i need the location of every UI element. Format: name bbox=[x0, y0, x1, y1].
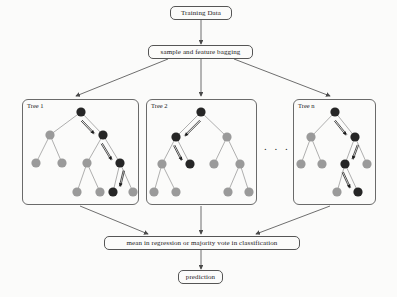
tree-edge bbox=[162, 164, 176, 192]
aggregation-box: mean in regression or majority vote in c… bbox=[104, 236, 300, 250]
tree-node-gray bbox=[157, 159, 166, 168]
tree-edge bbox=[120, 163, 133, 192]
tree-node-gray bbox=[244, 187, 253, 196]
tree-graph-tree-2 bbox=[149, 107, 253, 196]
tree-node-dark bbox=[115, 158, 124, 167]
tree-node-gray bbox=[95, 187, 104, 196]
tree-node-gray bbox=[57, 158, 66, 167]
tree-node-dark bbox=[108, 187, 117, 196]
tree-node-dark bbox=[76, 107, 85, 116]
tree-edge bbox=[311, 112, 335, 137]
tree-node-dark bbox=[185, 159, 194, 168]
tree-node-dark bbox=[330, 107, 339, 116]
tree-node-gray bbox=[45, 130, 54, 139]
tree-graph-tree-1 bbox=[31, 107, 137, 196]
tree-node-gray bbox=[31, 158, 40, 167]
tree-edge bbox=[87, 135, 103, 163]
tree-edge bbox=[36, 135, 50, 163]
tree-node-gray bbox=[235, 159, 244, 168]
tree-node-gray bbox=[128, 187, 137, 196]
bagging-box: sample and feature bagging bbox=[148, 45, 253, 59]
tree-node-gray bbox=[149, 187, 158, 196]
tree-edge bbox=[87, 163, 100, 192]
tree-node-gray bbox=[171, 187, 180, 196]
diagram-canvas: Tree 1 Tree 2 Tree n . . . Training Data… bbox=[0, 0, 397, 297]
tree-node-gray bbox=[362, 159, 371, 168]
tree-edge bbox=[345, 164, 358, 192]
tree-node-gray bbox=[332, 187, 341, 196]
tree-node-dark bbox=[340, 159, 349, 168]
tree-node-dark bbox=[350, 132, 359, 141]
tree-node-gray bbox=[223, 187, 232, 196]
tree-node-gray bbox=[306, 132, 315, 141]
tree-node-dark bbox=[98, 130, 107, 139]
tree-node-dark bbox=[171, 132, 180, 141]
tree-edge bbox=[50, 112, 81, 135]
tree-graph-tree-n bbox=[296, 107, 371, 196]
tree-node-dark bbox=[353, 187, 362, 196]
tree-node-gray bbox=[296, 159, 305, 168]
training-data-box: Training Data bbox=[170, 6, 232, 20]
tree-edge bbox=[201, 112, 227, 137]
tree-node-gray bbox=[222, 132, 231, 141]
tree-node-gray bbox=[317, 159, 326, 168]
prediction-box: prediction bbox=[178, 270, 223, 284]
tree-edge bbox=[77, 163, 87, 192]
tree-node-dark bbox=[196, 107, 205, 116]
tree-node-gray bbox=[82, 158, 91, 167]
tree-node-gray bbox=[209, 159, 218, 168]
tree-node-gray bbox=[72, 187, 81, 196]
